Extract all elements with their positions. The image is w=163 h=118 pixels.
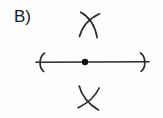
geometry-figure: B)	[0, 0, 163, 118]
construction-drawing	[0, 0, 163, 118]
center-point-dot	[82, 59, 88, 65]
